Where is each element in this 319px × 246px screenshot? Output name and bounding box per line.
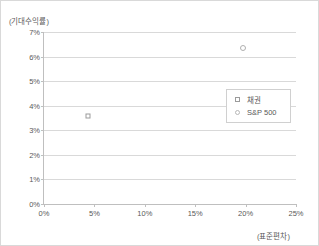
x-tick-label: 20% bbox=[238, 209, 253, 218]
y-tick-mark bbox=[41, 32, 44, 33]
y-tick-mark bbox=[41, 155, 44, 156]
y-gridline bbox=[44, 204, 296, 205]
y-gridline bbox=[44, 81, 296, 82]
circle-marker-icon bbox=[233, 110, 242, 115]
y-tick-mark bbox=[41, 179, 44, 180]
x-tick-label: 25% bbox=[288, 209, 303, 218]
x-tick-label: 0% bbox=[39, 209, 50, 218]
x-tick-label: 15% bbox=[188, 209, 203, 218]
y-tick-mark bbox=[41, 57, 44, 58]
legend-item-label: 채권 bbox=[247, 94, 261, 105]
x-axis-title: (표준편차) bbox=[257, 230, 290, 241]
y-tick-label: 2% bbox=[29, 150, 40, 159]
y-tick-label: 6% bbox=[29, 52, 40, 61]
y-tick-label: 0% bbox=[29, 200, 40, 209]
scatter-chart-figure: (기대수익률) 0%1%2%3%4%5%6%7%0%5%10%15%20%25%… bbox=[0, 0, 319, 246]
square-marker-icon bbox=[233, 97, 242, 102]
x-tick-label: 10% bbox=[137, 209, 152, 218]
x-tick-mark bbox=[145, 204, 146, 207]
y-tick-label: 5% bbox=[29, 77, 40, 86]
x-tick-label: 5% bbox=[89, 209, 100, 218]
y-gridline bbox=[44, 155, 296, 156]
y-tick-mark bbox=[41, 130, 44, 131]
y-axis-title: (기대수익률) bbox=[9, 15, 49, 26]
data-point-marker[interactable] bbox=[240, 45, 246, 51]
x-tick-mark bbox=[246, 204, 247, 207]
y-tick-label: 4% bbox=[29, 101, 40, 110]
y-gridline bbox=[44, 179, 296, 180]
x-tick-mark bbox=[44, 204, 45, 207]
data-point-marker[interactable] bbox=[86, 113, 91, 118]
x-tick-mark bbox=[296, 204, 297, 207]
legend-item-bond[interactable]: 채권 bbox=[233, 94, 285, 105]
legend-item-label: S&P 500 bbox=[247, 108, 276, 117]
x-tick-mark bbox=[195, 204, 196, 207]
y-gridline bbox=[44, 57, 296, 58]
x-tick-mark bbox=[94, 204, 95, 207]
y-gridline bbox=[44, 130, 296, 131]
legend-item-sp500[interactable]: S&P 500 bbox=[233, 107, 285, 118]
chart-legend: 채권 S&P 500 bbox=[226, 89, 291, 123]
y-tick-label: 1% bbox=[29, 175, 40, 184]
y-tick-mark bbox=[41, 106, 44, 107]
y-tick-mark bbox=[41, 81, 44, 82]
y-tick-label: 7% bbox=[29, 28, 40, 37]
y-gridline bbox=[44, 32, 296, 33]
y-tick-label: 3% bbox=[29, 126, 40, 135]
